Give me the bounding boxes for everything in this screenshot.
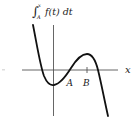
x-axis-label: x (125, 64, 131, 75)
integrand: f(t) dt (44, 6, 73, 17)
point-a-label: A (66, 78, 74, 88)
graph: ∫ x A f(t) dt x A B (0, 0, 136, 128)
margin-mark (2, 69, 5, 71)
integral-curve (33, 25, 108, 116)
point-b-label: B (82, 78, 90, 88)
integral-lower-limit: A (36, 14, 41, 20)
integral-upper-limit: x (38, 2, 41, 8)
